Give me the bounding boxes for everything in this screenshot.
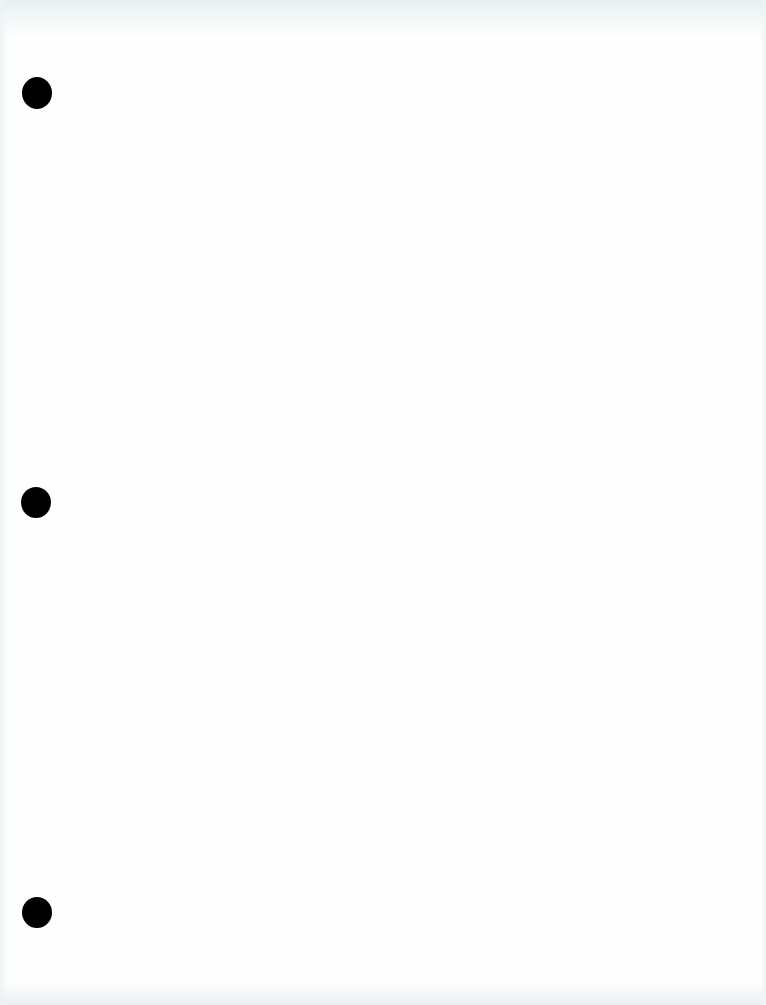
scan-edge-shading-right [760, 0, 766, 1005]
scan-edge-shading-top [0, 0, 766, 40]
hole-punch-bottom [22, 897, 52, 928]
scanned-page [0, 0, 766, 1005]
hole-punch-top [22, 77, 52, 109]
hole-punch-middle [21, 487, 51, 518]
scan-edge-shading-bottom [0, 983, 766, 1005]
scan-edge-shading-left [0, 0, 8, 1005]
